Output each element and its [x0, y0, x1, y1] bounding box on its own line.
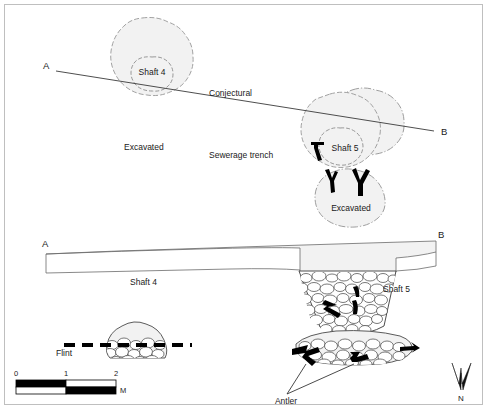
plan-conjectural-label: Conjectural	[209, 88, 252, 98]
section-label-b: B	[438, 229, 444, 240]
north-arrow-label: N	[458, 394, 464, 403]
scale-segment-upper-1	[66, 380, 116, 387]
section-shaft4-label: Shaft 4	[130, 277, 157, 287]
scale-tick-2: 2	[114, 369, 118, 378]
plan-shaft5-label: Shaft 5	[332, 143, 359, 153]
section-antler-label: Antler	[275, 396, 297, 406]
plan-excavated-lower-label: Excavated	[331, 203, 371, 213]
plan-shaft4-label: Shaft 4	[139, 67, 166, 77]
scale-segment-lower-1	[66, 387, 116, 394]
scale-unit-label: M	[120, 386, 126, 395]
plan-sewerage-trench-label: Sewerage trench	[209, 150, 274, 160]
plan-section-label-b: B	[441, 126, 447, 137]
plan-section-label-a: A	[43, 60, 50, 71]
figure-archaeological-plan-section: Shaft 4 Shaft 5 Excavated A	[0, 0, 487, 415]
figure-canvas: Shaft 4 Shaft 5 Excavated A	[0, 0, 487, 415]
scale-tick-1: 1	[64, 369, 68, 378]
scale-tick-0: 0	[14, 369, 18, 378]
section-shaft5-label: Shaft 5	[383, 284, 410, 294]
plan-excavated-left-label: Excavated	[124, 142, 164, 152]
scale-segment-upper-0	[16, 380, 66, 387]
scale-segment-lower-0	[16, 387, 66, 394]
section-flint-label: Flint	[56, 348, 73, 358]
section-label-a: A	[42, 238, 49, 249]
